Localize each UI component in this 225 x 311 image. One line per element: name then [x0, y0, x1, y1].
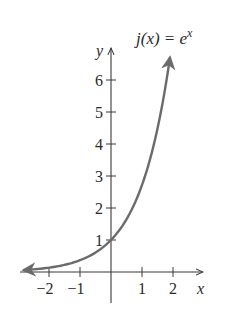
exponential-function-graph: −2−112123456 y x j(x) = ex: [0, 0, 225, 311]
x-tick-label: 2: [169, 280, 177, 297]
y-tick-label: 3: [95, 168, 103, 185]
tick-labels: −2−112123456: [36, 72, 177, 297]
y-tick-label: 5: [95, 104, 103, 121]
x-tick-label: −1: [67, 280, 84, 297]
x-tick-label: 1: [138, 280, 146, 297]
x-axis-label: x: [196, 280, 204, 297]
function-label-exponent: x: [186, 26, 193, 40]
y-axis-label: y: [94, 42, 104, 60]
y-tick-label: 1: [95, 232, 103, 249]
x-tick-label: −2: [36, 280, 53, 297]
function-label-name: j(x) = e: [134, 29, 188, 48]
y-tick-label: 2: [95, 200, 103, 217]
y-tick-label: 6: [95, 72, 103, 89]
function-label: j(x) = ex: [134, 26, 193, 48]
y-tick-label: 4: [95, 136, 103, 153]
